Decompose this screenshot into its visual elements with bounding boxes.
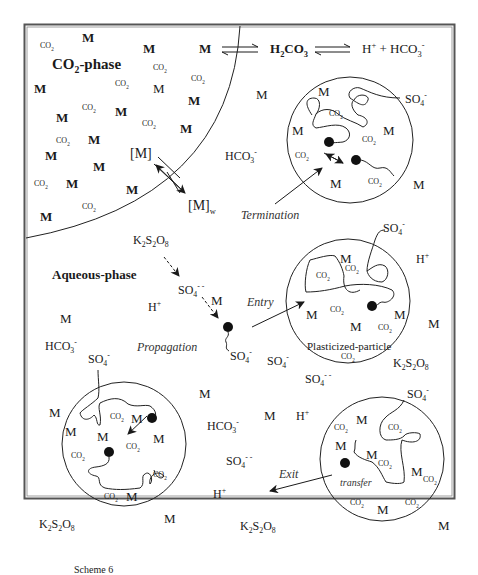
monomer: M [49, 406, 61, 419]
co2-molecule: CO2 [350, 499, 364, 507]
bicarbonate-ion: HCO3- [207, 420, 239, 432]
co2-molecule: CO2 [82, 104, 96, 112]
co2-molecule: CO2 [423, 476, 437, 484]
sulfate-radical-label: SO4- [405, 93, 427, 105]
termination-pointer [275, 168, 322, 204]
persulfate-label: K2S2O8 [133, 234, 169, 246]
monomer: M [143, 42, 155, 55]
monomer: M [377, 503, 389, 516]
transfer-label: transfer [340, 478, 372, 488]
monomer: M [65, 425, 77, 438]
aqueous-phase-label: Aqueous-phase [52, 268, 137, 281]
persulfate-label: K2S2O8 [240, 520, 276, 532]
co2-phase-label: CO2-phase [52, 57, 121, 72]
monomer: M [199, 387, 211, 400]
partition-arrows [154, 157, 185, 193]
sulfate-dianion-label: SO4- - [226, 455, 252, 467]
monomer: M [45, 149, 57, 162]
exit-label: Exit [279, 468, 298, 480]
co2-molecule: CO2 [368, 178, 382, 186]
co2-molecule: CO2 [153, 64, 167, 72]
co2-molecule: CO2 [110, 413, 124, 421]
plasticized-particle-label: Plasticized-particle [307, 341, 391, 352]
co2-molecule: CO2 [191, 75, 205, 83]
bicarbonate-ion: HCO3- [45, 340, 77, 352]
co2-molecule: CO2 [378, 324, 392, 332]
sulfate-radical-label: SO4- [383, 222, 405, 234]
co2-molecule: CO2 [388, 424, 402, 432]
co2-molecule: CO2 [341, 353, 355, 361]
radical-dot-1 [324, 137, 334, 147]
co2-molecule: CO2 [115, 80, 129, 88]
monomer: M [306, 308, 318, 321]
proton-label: H+ [416, 253, 429, 265]
monomer: M [366, 448, 378, 461]
proton-label: H+ [296, 410, 309, 422]
prop-radical-1 [147, 413, 157, 423]
radical-dot-2 [351, 155, 361, 165]
monomer: M [93, 160, 105, 173]
monomer: M [164, 512, 176, 525]
co2-molecule: CO2 [295, 152, 309, 160]
equilibrium-arrow-2 [315, 44, 350, 55]
particle-termination [287, 77, 413, 203]
co2-molecule: CO2 [334, 424, 348, 432]
monomer: M [356, 413, 368, 426]
equilibrium-monomer: M [199, 42, 211, 55]
monomer-water-phase: [M]w [188, 199, 216, 213]
monomer: M [126, 183, 138, 196]
prop-radical-2 [104, 447, 114, 457]
monomer: M [438, 519, 450, 532]
monomer: M [335, 439, 347, 452]
monomer: M [97, 430, 109, 443]
particle-chain-c [367, 230, 388, 282]
monomer: M [292, 124, 304, 137]
co2-molecule: CO2 [316, 272, 330, 280]
polymer-chain-3 [361, 160, 394, 176]
proton-label: H+ [148, 301, 161, 313]
monomer: M [66, 177, 78, 190]
co2-molecule: CO2 [345, 265, 359, 273]
monomer: M [188, 94, 200, 107]
co2-molecule: CO2 [405, 499, 419, 507]
monomer: M [428, 317, 440, 330]
monomer: M [60, 312, 72, 325]
co2-molecule: CO2 [104, 493, 118, 501]
co2-molecule: CO2 [153, 471, 167, 479]
co2-molecule: CO2 [329, 110, 343, 118]
entry-label: Entry [247, 296, 274, 308]
monomer: M [153, 432, 165, 445]
monomer: M [394, 308, 406, 321]
sulfate-radical-label: SO4- [407, 388, 429, 400]
monomer-co2-phase: [M] [130, 147, 152, 161]
monomer: M [82, 31, 94, 44]
sulfate-dianion-label: SO4- - [305, 373, 331, 385]
monomer: M [126, 490, 138, 503]
monomer: M [115, 105, 127, 118]
exit-radical [340, 458, 350, 468]
monomer: M [40, 210, 52, 223]
monomer: M [34, 82, 46, 95]
proton-label: H+ [213, 488, 226, 500]
monomer: M [56, 111, 68, 124]
sulfate-radical-label: SO4- [88, 353, 110, 365]
co2-molecule: CO2 [142, 120, 156, 128]
decomposition-arrow [164, 257, 179, 276]
bicarbonate-ion: HCO3- [225, 150, 257, 162]
monomer: M [318, 85, 330, 98]
monomer: M [153, 82, 165, 95]
co2-molecule: CO2 [126, 443, 140, 451]
co2-molecule: CO2 [82, 203, 96, 211]
sulfate-radical-label: SO4- [230, 350, 252, 362]
monomer: M [88, 133, 100, 146]
propagation-label: Propagation [137, 341, 197, 353]
equilibrium-products: H+ + HCO3- [362, 42, 424, 55]
co2-molecule: CO2 [40, 42, 54, 50]
persulfate-label: K2S2O8 [39, 518, 75, 530]
co2-molecule: CO2 [71, 452, 85, 460]
sulfate-radical-label: SO4- [267, 355, 289, 367]
scheme-caption: Scheme 6 [74, 565, 113, 575]
monomer: M [211, 294, 223, 307]
co2-molecule: CO2 [330, 306, 344, 314]
